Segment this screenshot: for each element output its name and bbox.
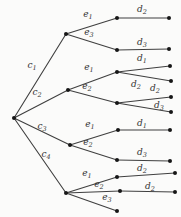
tree-node-n4c — [115, 209, 119, 213]
tree-edge-g3-d3 — [117, 160, 170, 161]
edge-label-g1-e3: e3 — [84, 27, 93, 39]
tree-node-n3b — [115, 158, 119, 162]
tree-edge-g3-e2 — [70, 145, 117, 160]
edge-label-g1-e1: e1 — [83, 9, 92, 21]
tree-node-n4b — [118, 189, 122, 193]
edge-label-g3-e1: e1 — [85, 119, 94, 131]
tree-node-n2b — [115, 101, 119, 105]
tree-diagram: c1c2c3c4e1e3d2d3e1e2d1d2d2d3e1e2d1d3e1e2… — [0, 0, 181, 217]
edge-label-c3: c3 — [37, 121, 46, 133]
tree-node-l4a — [173, 171, 177, 175]
tree-node-n4a — [115, 175, 119, 179]
tree-node-l3a — [168, 128, 172, 132]
tree-edge-g2-d2a — [117, 72, 171, 81]
tree-edge-g2-d2b — [117, 97, 171, 103]
edge-label-c2: c2 — [32, 87, 41, 99]
edge-label-g4-e2: e2 — [94, 179, 103, 191]
tree-edge-c1 — [14, 34, 66, 118]
edge-label-g2-d1: d1 — [137, 53, 147, 65]
tree-edge-g1-d3 — [117, 49, 169, 50]
tree-node-l3b — [168, 159, 172, 163]
tree-node-n1b — [115, 48, 119, 52]
edge-label-g1-d3: d3 — [137, 37, 147, 49]
edge-label-g3-d1: d1 — [137, 118, 147, 130]
tree-node-nc2 — [66, 88, 70, 92]
edge-label-g2-e1: e1 — [84, 62, 93, 74]
edge-label-g2-d2a: d2 — [131, 79, 141, 91]
edge-label-g4-e3: e3 — [102, 192, 111, 204]
tree-node-nc1 — [64, 32, 68, 36]
tree-node-l1b — [167, 47, 171, 51]
edge-label-g2-d3: d3 — [154, 100, 164, 112]
tree-node-l2d — [169, 110, 173, 114]
tree-node-root — [12, 116, 16, 120]
tree-node-l2a — [168, 64, 172, 68]
tree-node-l1a — [167, 16, 171, 20]
tree-node-n2a — [115, 70, 119, 74]
tree-node-l2b — [169, 79, 173, 83]
edge-label-c1: c1 — [27, 60, 36, 72]
tree-edge-g3-e1 — [70, 130, 118, 145]
tree-node-l2c — [169, 95, 173, 99]
tree-edge-g2-e1 — [68, 72, 117, 90]
edge-label-g1-d2: d2 — [137, 4, 147, 16]
edge-label-g3-d3: d3 — [137, 147, 147, 159]
tree-node-nc4 — [64, 191, 68, 195]
tree-edge-g4-e2 — [66, 191, 120, 193]
tree-svg: c1c2c3c4e1e3d2d3e1e2d1d2d2d3e1e2d1d3e1e2… — [0, 0, 181, 217]
tree-edge-g2-d1 — [117, 66, 170, 72]
edge-label-g2-e2: e2 — [82, 81, 91, 93]
tree-node-nc3 — [68, 143, 72, 147]
edge-label-g2-d2b: d2 — [150, 83, 160, 95]
tree-node-n3a — [116, 128, 120, 132]
tree-node-n1a — [115, 16, 119, 20]
tree-edge-g2-e2 — [68, 90, 117, 103]
edge-label-g4-e1: e1 — [82, 168, 91, 180]
tree-edge-g4-d2b — [120, 191, 175, 192]
tree-node-l4b — [173, 190, 177, 194]
edge-label-g4-d2a: d2 — [137, 163, 147, 175]
